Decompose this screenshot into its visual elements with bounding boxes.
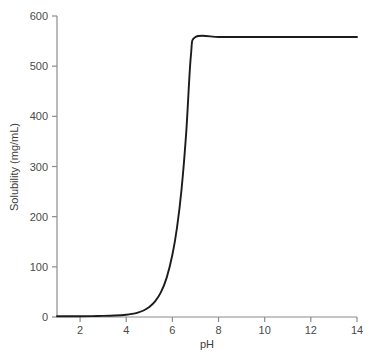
solubility-ph-line-chart: 0100200300400500600 Solubility (mg/mL) 2… [0, 0, 385, 359]
x-tick-label: 12 [305, 324, 317, 336]
y-tick-label: 200 [30, 211, 48, 223]
x-tick-label: 14 [351, 324, 363, 336]
y-tick-label: 0 [42, 311, 48, 323]
x-tick-label: 2 [77, 324, 83, 336]
x-tick-label: 10 [259, 324, 271, 336]
x-axis-title: pH [200, 338, 214, 350]
chart-container: 0100200300400500600 Solubility (mg/mL) 2… [0, 0, 385, 359]
y-tick-label: 300 [30, 161, 48, 173]
x-tick-label: 6 [169, 324, 175, 336]
y-axis-title: Solubility (mg/mL) [8, 123, 20, 211]
y-tick-label: 500 [30, 60, 48, 72]
chart-background [0, 0, 385, 359]
y-tick-label: 400 [30, 110, 48, 122]
y-tick-label: 600 [30, 10, 48, 22]
y-tick-label: 100 [30, 261, 48, 273]
x-tick-label: 8 [215, 324, 221, 336]
x-tick-label: 4 [123, 324, 129, 336]
